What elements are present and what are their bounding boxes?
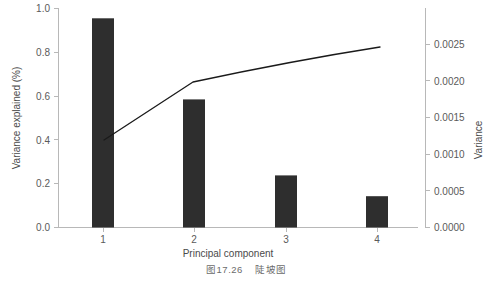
x-label-2: 2 — [191, 234, 197, 245]
right-y-tick-labels: 0.0025 0.0020 0.0015 0.0010 0.0005 0.000… — [434, 39, 465, 233]
bar-2[interactable] — [183, 99, 205, 227]
right-y-label-0: 0.0000 — [434, 222, 465, 233]
right-y-label-1: 0.0005 — [434, 186, 465, 197]
left-y-ticks — [54, 9, 59, 228]
x-label-1: 1 — [100, 234, 106, 245]
left-y-label-5: 1.0 — [36, 3, 50, 14]
figure-container: 1.0 0.8 0.6 0.4 0.2 0.0 Variance explain… — [0, 0, 493, 287]
left-y-label-1: 0.2 — [36, 178, 50, 189]
x-tick-labels: 1 2 3 4 — [100, 234, 380, 245]
bar-3[interactable] — [275, 175, 297, 227]
left-y-label-2: 0.4 — [36, 135, 50, 146]
y-axis-title: Variance explained (%) — [11, 67, 22, 170]
x-ticks — [103, 228, 377, 233]
x-axis-title: Principal component — [183, 248, 274, 259]
x-label-3: 3 — [283, 234, 289, 245]
variance-line[interactable] — [104, 47, 380, 140]
x-label-4: 4 — [374, 234, 380, 245]
bar-1[interactable] — [92, 18, 114, 227]
scree-plot-chart: 1.0 0.8 0.6 0.4 0.2 0.0 Variance explain… — [0, 0, 493, 287]
left-y-label-0: 0.0 — [36, 222, 50, 233]
left-y-label-3: 0.6 — [36, 91, 50, 102]
right-y-label-2: 0.0010 — [434, 149, 465, 160]
right-y-label-5: 0.0025 — [434, 39, 465, 50]
right-y-label-3: 0.0015 — [434, 112, 465, 123]
right-y-ticks — [426, 44, 431, 227]
bar-4[interactable] — [366, 196, 388, 227]
secondary-y-axis-title: Variance — [473, 120, 484, 159]
figure-caption: 图17.26 陡坡图 — [0, 262, 493, 276]
bar-series — [92, 18, 388, 227]
left-y-tick-labels: 1.0 0.8 0.6 0.4 0.2 0.0 — [36, 3, 50, 233]
left-y-label-4: 0.8 — [36, 47, 50, 58]
right-y-label-4: 0.0020 — [434, 76, 465, 87]
